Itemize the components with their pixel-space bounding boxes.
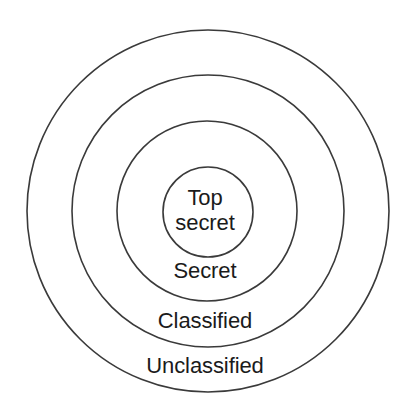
classification-rings-diagram: Top secret Secret Classified Unclassifie…	[0, 0, 410, 415]
ring-unclassified-circle	[27, 30, 389, 392]
ring-secret-circle	[117, 121, 297, 301]
ring-top-secret-circle	[163, 167, 253, 257]
concentric-circles-graphic	[0, 0, 410, 415]
ring-classified-circle	[72, 75, 344, 347]
